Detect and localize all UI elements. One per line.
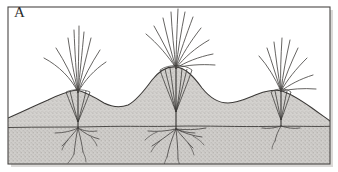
soil-body-deep <box>8 127 330 164</box>
panel-label: A <box>14 5 25 20</box>
figure-illustration <box>0 0 338 172</box>
figure-panel: A <box>0 0 338 172</box>
